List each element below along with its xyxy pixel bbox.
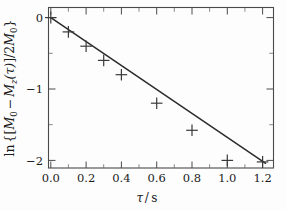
data-point xyxy=(151,97,163,109)
relaxation-decay-plot: 0.0 0.2 0.4 0.6 0.8 1.0 1.2 0 −1 −2 τ/s … xyxy=(0,0,287,211)
x-tick-label: 1.0 xyxy=(218,171,236,185)
ylabel-m0-a: M xyxy=(2,116,17,131)
x-tick-label: 0.6 xyxy=(148,171,166,185)
figure-container: 0.0 0.2 0.4 0.6 0.8 1.0 1.2 0 −1 −2 τ/s … xyxy=(0,0,287,211)
ylabel-ln: ln xyxy=(2,144,17,156)
ylabel-m0-a-sub: 0 xyxy=(9,111,19,116)
data-point xyxy=(63,26,75,38)
y-tick-label: −2 xyxy=(26,154,43,168)
x-axis-title-tau: τ xyxy=(137,191,144,205)
plot-frame xyxy=(49,8,274,169)
x-axis-title: τ/s xyxy=(137,191,158,205)
top-axis-ticks xyxy=(51,8,263,15)
ylabel-open-brace: { xyxy=(2,135,17,143)
y-tick-labels: 0 −1 −2 xyxy=(26,11,43,168)
x-tick-labels: 0.0 0.2 0.4 0.6 0.8 1.0 1.2 xyxy=(42,171,272,185)
ylabel-close-brace: } xyxy=(2,20,17,28)
y-axis-major-ticks xyxy=(49,18,56,161)
ylabel-tau-paren: (τ) xyxy=(2,63,17,80)
ylabel-slash: /2 xyxy=(2,46,17,58)
ylabel-mz: M xyxy=(2,83,17,98)
data-point xyxy=(186,125,198,137)
x-tick-label: 0.2 xyxy=(77,171,95,185)
x-tick-label: 0.4 xyxy=(112,171,130,185)
svg-text:ln{[M0−Mz(τ)]/2M0}: ln{[M0−Mz(τ)]/2M0} xyxy=(2,20,19,157)
x-axis-title-unit: s xyxy=(151,191,157,205)
right-axis-ticks xyxy=(267,18,274,161)
y-axis-title: ln{[M0−Mz(τ)]/2M0} xyxy=(2,20,19,157)
y-tick-label: 0 xyxy=(36,11,43,25)
data-point xyxy=(80,40,92,52)
y-tick-label: −1 xyxy=(26,82,43,96)
x-axis-major-ticks xyxy=(51,162,263,169)
data-point xyxy=(116,69,128,81)
x-tick-label: 0.8 xyxy=(183,171,201,185)
linear-fit-line xyxy=(51,18,266,164)
x-tick-label: 0.0 xyxy=(42,171,60,185)
data-point xyxy=(45,12,57,24)
x-tick-label: 1.2 xyxy=(253,171,271,185)
svg-text:τ/s: τ/s xyxy=(137,191,158,205)
ylabel-minus: − xyxy=(2,99,17,109)
data-point xyxy=(222,155,234,167)
ylabel-m0-b: M xyxy=(2,32,17,47)
x-axis-title-slash: / xyxy=(145,191,150,205)
